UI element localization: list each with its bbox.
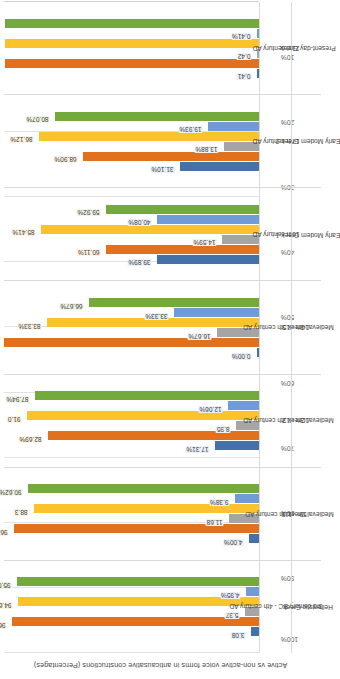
bar[interactable]: [4, 338, 259, 347]
bar[interactable]: [35, 391, 259, 400]
bar-value-label: 96.00%: [0, 529, 9, 536]
bar-value-label: 95.05%: [0, 582, 11, 589]
bar[interactable]: [39, 132, 259, 141]
bar[interactable]: [12, 617, 259, 626]
bar-column: 12.06%: [4, 401, 259, 410]
bar-column: 16.67%: [4, 328, 259, 337]
category-cell: 16th century ADEarly Modern Greek 1: [259, 187, 321, 280]
bar[interactable]: [5, 39, 259, 48]
category-cell: 21st century ADPresent-day Greek: [259, 2, 321, 94]
bar-column: 90.62%: [4, 484, 259, 493]
bar-group: 17.31%82.69%8.9591.012.06%87.94%: [4, 375, 259, 467]
bar-column: 99.5: [4, 39, 259, 48]
bar-column: 99.59%: [4, 19, 259, 28]
category-stage-label: Early Modern Greek 1: [275, 230, 340, 238]
y-axis-title: Active vs non-active voice forms in anti…: [0, 653, 321, 679]
bar[interactable]: [89, 298, 259, 307]
bar-value-label: 68.90%: [54, 156, 78, 163]
bar-group: 39.89%60.11%14.59%85.41%40.08%59.92%: [4, 188, 259, 280]
bar[interactable]: [83, 152, 259, 161]
bar-column: 0.42: [4, 49, 259, 58]
category-band: 3.0896.95.3794.64.95%95.05%: [4, 560, 259, 653]
bar[interactable]: [106, 245, 259, 254]
bar-column: 80.07%: [4, 112, 259, 121]
bar-column: 87.94%: [4, 391, 259, 400]
category-band: 0.00%100.00%16.67%83.33%33.33%66.67%: [4, 280, 259, 373]
bar-value-label: 87.94%: [5, 396, 29, 403]
bar[interactable]: [27, 411, 259, 420]
bar-value-label: 85.41%: [12, 229, 36, 236]
category-stage: Medieval Greek 2: [291, 375, 323, 467]
bar-column: 85.41%: [4, 225, 259, 234]
category-bands: 3.0896.95.3794.64.95%95.05%4.00%96.00%11…: [4, 2, 259, 653]
bar-value-label: 40.08%: [127, 219, 151, 226]
category-stage-label: Hellenistic Greek: [283, 603, 333, 611]
bar-column: 86.12%: [4, 132, 259, 141]
category-cell: 17th century ADEarly Modern Greek 2: [259, 94, 321, 187]
bar-value-label: 19.93%: [179, 126, 203, 133]
bar-value-label: 3.08: [231, 632, 246, 639]
bar-column: 95.05%: [4, 577, 259, 586]
category-band: 31.10%68.90%13.88%86.12%19.93%80.07%: [4, 94, 259, 187]
bar[interactable]: [28, 484, 259, 493]
category-stage: Early Modern Greek 2: [291, 95, 323, 187]
bar[interactable]: [246, 587, 259, 596]
category-stage-label: Medieval Greek 3: [282, 324, 334, 332]
bar[interactable]: [174, 308, 259, 317]
bar-value-label: 82.69%: [19, 436, 43, 443]
bar-column: 100.00%: [4, 338, 259, 347]
bar[interactable]: [5, 59, 259, 68]
bar-column: 4.95%: [4, 587, 259, 596]
bar-value-label: 88.3: [14, 509, 29, 516]
bar-column: 96.9: [4, 617, 259, 626]
bar-value-label: 91.0: [7, 416, 22, 423]
bar[interactable]: [5, 19, 259, 28]
bar-column: 4.00%: [4, 534, 259, 543]
bar-group: 0.00%100.00%16.67%83.33%33.33%66.67%: [4, 281, 259, 373]
category-stage-label: Medieval Greek 1: [282, 510, 334, 518]
category-cell: 3rd century BC - 4th century ADHellenist…: [259, 560, 321, 653]
bar-column: 13.88%: [4, 142, 259, 151]
category-axis: 3rd century BC - 4th century ADHellenist…: [259, 2, 321, 653]
category-stage: Early Modern Greek 1: [291, 188, 323, 280]
bar-column: 99.5: [4, 59, 259, 68]
bar-value-label: 17.31%: [185, 446, 209, 453]
bar[interactable]: [208, 122, 259, 131]
plot-area: 3.0896.95.3794.64.95%95.05%4.00%96.00%11…: [4, 2, 259, 653]
bar-column: 14.59%: [4, 235, 259, 244]
bar-value-label: 9.38%: [209, 499, 229, 506]
bar[interactable]: [157, 215, 259, 224]
bar-value-label: 86.12%: [10, 136, 34, 143]
category-band: 4.00%96.00%11.6888.39.38%90.62%: [4, 467, 259, 560]
bar-column: 9.38%: [4, 494, 259, 503]
category-stage-label: Medieval Greek 2: [282, 417, 334, 425]
bar-value-label: 31.10%: [150, 166, 174, 173]
bar[interactable]: [180, 162, 259, 171]
category-cell: 5th - 11th century ADMedieval Greek 1: [259, 467, 321, 560]
bar-value-label: 13.88%: [194, 146, 218, 153]
bar[interactable]: [41, 225, 259, 234]
bar[interactable]: [106, 205, 259, 214]
category-stage: Medieval Greek 1: [291, 468, 323, 560]
bar-group: 31.10%68.90%13.88%86.12%19.93%80.07%: [4, 95, 259, 187]
bar[interactable]: [249, 534, 259, 543]
bar-column: 0.41: [4, 69, 259, 78]
bar[interactable]: [251, 627, 259, 636]
bar[interactable]: [228, 401, 259, 410]
bar-value-label: 14.59%: [192, 239, 216, 246]
bar-column: 68.90%: [4, 152, 259, 161]
bar-group: 3.0896.95.3794.64.95%95.05%: [4, 561, 259, 653]
bar-value-label: 11.68: [206, 519, 224, 526]
bar[interactable]: [55, 112, 259, 121]
bar-value-label: 0.42: [237, 53, 252, 60]
bar[interactable]: [235, 494, 259, 503]
bar-value-label: 60.11%: [77, 249, 101, 256]
bar-value-label: 33.33%: [144, 313, 168, 320]
category-cell: 12th - 13th century ADMedieval Greek 2: [259, 374, 321, 467]
bar[interactable]: [157, 255, 259, 264]
category-stage: Medieval Greek 3: [291, 281, 323, 373]
bar[interactable]: [17, 577, 259, 586]
bar[interactable]: [215, 441, 259, 450]
